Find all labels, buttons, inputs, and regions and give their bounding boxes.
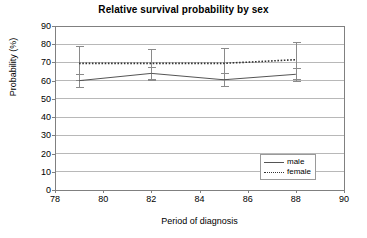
y-tick-label: 30 <box>41 131 51 140</box>
y-tick-label: 90 <box>41 22 51 31</box>
legend-item-label: female <box>287 167 311 177</box>
x-tick-label: 86 <box>243 195 253 204</box>
y-tick-mark <box>52 172 55 173</box>
y-tick-mark <box>52 154 55 155</box>
y-tick-label: 10 <box>41 167 51 176</box>
relative-survival-chart: Relative survival probability by sex Pro… <box>0 0 367 238</box>
x-tick-label: 78 <box>50 195 60 204</box>
y-tick-mark <box>52 117 55 118</box>
x-tick-mark <box>200 190 201 193</box>
x-tick-mark <box>151 190 152 193</box>
error-bar <box>148 49 156 80</box>
x-tick-label: 82 <box>146 195 156 204</box>
y-tick-mark <box>52 62 55 63</box>
chart-title: Relative survival probability by sex <box>0 4 367 15</box>
series-line-male <box>79 73 296 80</box>
x-tick-label: 84 <box>194 195 204 204</box>
legend-line-swatch-icon <box>264 168 284 176</box>
y-tick-mark <box>52 99 55 100</box>
error-bar <box>293 42 301 79</box>
y-tick-label: 40 <box>41 113 51 122</box>
y-tick-label: 80 <box>41 40 51 49</box>
x-tick-mark <box>344 190 345 193</box>
legend-item-label: male <box>287 157 304 167</box>
y-tick-label: 20 <box>41 149 51 158</box>
x-tick-mark <box>55 190 56 193</box>
y-tick-label: 60 <box>41 76 51 85</box>
chart-legend: malefemale <box>260 154 316 180</box>
legend-line-swatch-icon <box>264 158 284 166</box>
x-axis-title: Period of diagnosis <box>55 216 344 226</box>
x-tick-mark <box>296 190 297 193</box>
y-tick-mark <box>52 81 55 82</box>
x-tick-label: 80 <box>98 195 108 204</box>
y-tick-label: 50 <box>41 94 51 103</box>
y-tick-mark <box>52 135 55 136</box>
x-tick-label: 90 <box>339 195 349 204</box>
x-tick-label: 88 <box>291 195 301 204</box>
x-tick-mark <box>248 190 249 193</box>
legend-item-male[interactable]: male <box>264 157 311 167</box>
legend-item-female[interactable]: female <box>264 167 311 177</box>
y-tick-mark <box>52 26 55 27</box>
y-tick-mark <box>52 44 55 45</box>
y-tick-label: 70 <box>41 58 51 67</box>
y-axis-title: Probability (%) <box>8 7 18 127</box>
plot-area: 010203040506070809078808284868890 malefe… <box>55 26 344 190</box>
x-tick-mark <box>103 190 104 193</box>
